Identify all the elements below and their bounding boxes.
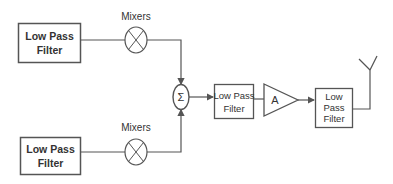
lpf-middle-block: Low Pass Filter [213,85,254,119]
antenna-icon [359,56,377,70]
lpf-bottom-line2: Filter [38,157,64,169]
lpf-bottom-block: Low Pass Filter [21,138,81,175]
lpf-output-line1: Low [325,91,343,102]
wire-lpf-to-antenna [353,70,371,109]
block-diagram: Low Pass Filter Mixers Σ Low Pass Filter… [0,0,393,184]
lpf-top-line2: Filter [37,44,63,56]
mixer-top: Mixers [121,11,150,53]
mixer-top-label: Mixers [121,11,150,22]
summer-node: Σ [173,85,189,110]
summer-symbol: Σ [178,91,185,103]
wire-mixer-top-to-summer [147,40,181,84]
lpf-middle-line2: Filter [223,103,244,114]
amplifier-triangle-icon [264,84,298,116]
lpf-middle-line1: Low Pass [213,90,254,101]
lpf-output-block: Low Pass Filter [316,89,353,128]
lpf-output-line2: Pass [323,102,344,113]
lpf-top-line1: Low Pass [25,30,74,42]
amplifier-label: A [271,94,279,106]
mixer-bottom: Mixers [121,122,150,165]
mixer-bottom-label: Mixers [121,122,150,133]
lpf-top-block: Low Pass Filter [19,24,81,63]
lpf-output-line3: Filter [323,113,344,124]
lpf-bottom-line1: Low Pass [26,143,75,155]
wire-mixer-bottom-to-summer [147,110,181,152]
amplifier: A [264,84,298,116]
